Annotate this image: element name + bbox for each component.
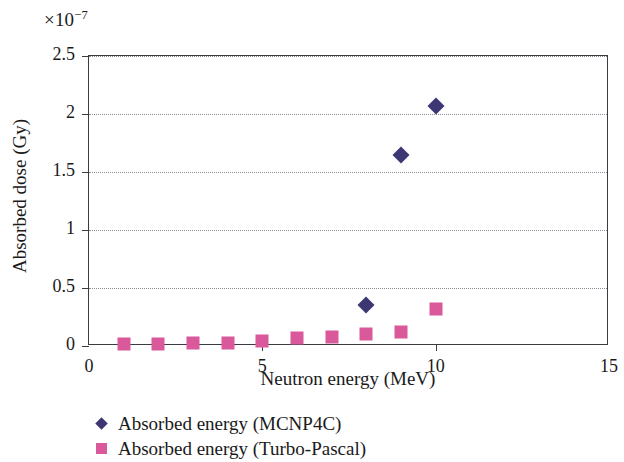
y-axis-multiplier-exponent: −7	[74, 8, 87, 22]
y-gridline	[89, 172, 607, 173]
y-axis-tick	[82, 114, 89, 115]
data-point-marker	[291, 332, 304, 345]
y-axis-tick	[82, 56, 89, 57]
y-axis-multiplier-base: ×10	[44, 9, 74, 30]
data-point-marker	[256, 334, 269, 347]
y-gridline	[89, 56, 607, 57]
data-point-marker	[393, 146, 410, 163]
y-axis-tick	[82, 230, 89, 231]
y-axis-title: Absorbed dose (Gy)	[9, 96, 31, 296]
y-gridline	[89, 288, 607, 289]
data-point-marker	[360, 327, 373, 340]
chart-legend: Absorbed energy (MCNP4C) Absorbed energy…	[96, 412, 366, 459]
y-axis-tick-label: 0.5	[11, 276, 75, 297]
legend-diamond-marker-icon	[95, 417, 107, 429]
data-point-marker	[221, 336, 234, 349]
y-axis-tick-label: 0	[11, 334, 75, 355]
x-axis-title: Neutron energy (MeV)	[88, 368, 608, 390]
data-point-marker	[187, 337, 200, 350]
legend-label-mcnp4c: Absorbed energy (MCNP4C)	[118, 414, 341, 433]
data-point-marker	[325, 330, 338, 343]
y-axis-multiplier: ×10−7	[44, 8, 88, 31]
y-axis-tick	[82, 346, 89, 347]
data-point-marker	[152, 337, 165, 350]
legend-item-mcnp4c: Absorbed energy (MCNP4C)	[96, 412, 366, 434]
absorbed-dose-scatter-chart: ×10−7 Absorbed dose (Gy) 00.511.522.5051…	[0, 0, 624, 462]
y-axis-tick	[82, 172, 89, 173]
y-axis-tick	[82, 288, 89, 289]
legend-label-turbo-pascal: Absorbed energy (Turbo-Pascal)	[118, 439, 366, 458]
y-gridline	[89, 230, 607, 231]
y-axis-tick-label: 1	[11, 218, 75, 239]
legend-item-turbo-pascal: Absorbed energy (Turbo-Pascal)	[96, 437, 366, 459]
data-point-marker	[358, 297, 375, 314]
y-axis-tick-label: 1.5	[11, 160, 75, 181]
y-axis-tick-label: 2.5	[11, 44, 75, 65]
x-axis-tick	[436, 344, 437, 351]
plot-area: 00.511.522.5051015	[88, 55, 608, 345]
data-point-marker	[395, 325, 408, 338]
y-gridline	[89, 114, 607, 115]
legend-square-marker-icon	[96, 443, 107, 454]
y-axis-tick-label: 2	[11, 102, 75, 123]
data-point-marker	[117, 338, 130, 351]
data-point-marker	[429, 302, 442, 315]
data-point-marker	[427, 97, 444, 114]
